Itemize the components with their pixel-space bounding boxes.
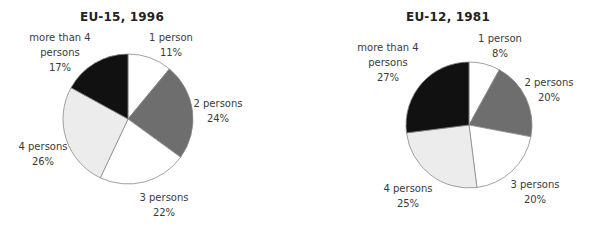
- right-label-3-persons: 3 persons 20%: [510, 177, 559, 207]
- left-label-2-persons: 2 persons 24%: [193, 96, 242, 126]
- left-label-1-person: 1 person 11%: [149, 30, 193, 60]
- left-chart-title: EU-15, 1996: [80, 10, 164, 24]
- right-chart-title: EU-12, 1981: [406, 10, 490, 24]
- right-pie: [406, 62, 532, 188]
- left-label-more-than-4: more than 4 persons 17%: [29, 30, 90, 75]
- right-label-1-person: 1 person 8%: [478, 31, 522, 61]
- right-label-more-than-4: more than 4 persons 27%: [357, 40, 418, 85]
- pie-slice-4-persons: [407, 125, 477, 188]
- right-label-2-persons: 2 persons 20%: [524, 75, 573, 105]
- left-label-4-persons: 4 persons 26%: [18, 139, 67, 169]
- left-label-3-persons: 3 persons 22%: [139, 190, 188, 220]
- right-label-4-persons: 4 persons 25%: [383, 181, 432, 211]
